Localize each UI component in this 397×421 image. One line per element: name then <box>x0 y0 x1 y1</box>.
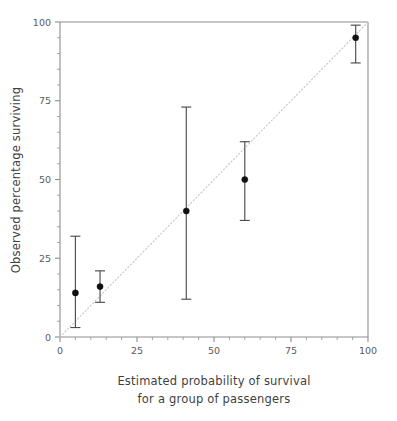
marker-point <box>72 290 78 296</box>
x-tick-label-75: 75 <box>285 345 297 356</box>
marker-point <box>97 284 103 290</box>
y-tick-label-0: 0 <box>45 332 51 343</box>
y-tick-label-75: 75 <box>39 95 51 106</box>
y-axis-label-text: Observed percentage surviving <box>9 87 23 274</box>
y-tick-label-100: 100 <box>33 17 51 28</box>
scatter-plot: 0255075100 0255075100 Observed percentag… <box>0 0 397 421</box>
marker-point <box>183 208 189 214</box>
x-tick-label-25: 25 <box>131 345 143 356</box>
y-tick-label-50: 50 <box>39 174 51 185</box>
x-axis-label-line2: for a group of passengers <box>138 392 291 406</box>
y-axis-label: Observed percentage surviving <box>9 87 23 274</box>
y-tick-label-25: 25 <box>39 253 51 264</box>
chart-figure: 0255075100 0255075100 Observed percentag… <box>0 0 397 421</box>
x-tick-label-100: 100 <box>359 345 377 356</box>
marker-point <box>353 35 359 41</box>
x-tick-label-0: 0 <box>57 345 63 356</box>
x-tick-label-50: 50 <box>208 345 220 356</box>
x-axis-label-line1: Estimated probability of survival <box>117 374 310 388</box>
marker-point <box>242 176 248 182</box>
